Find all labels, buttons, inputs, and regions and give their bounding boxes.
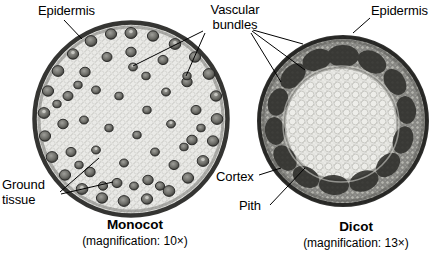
label-vascular-bundles: Vascular bundles	[204, 2, 266, 32]
caption-sub-dicot: (magnification: 13×)	[256, 236, 438, 250]
label-epidermis-left: Epidermis	[38, 3, 95, 18]
label-cortex: Cortex	[216, 169, 254, 184]
dicot-specimen	[255, 33, 435, 213]
leader-epidermis-left	[64, 20, 82, 39]
figure-container: Epidermis Vascular bundles Epidermis Gro…	[0, 0, 438, 257]
caption-sub-monocot: (magnification: 10×)	[35, 234, 235, 248]
leader-epidermis-right	[353, 18, 370, 33]
label-ground-tissue: Ground tissue	[2, 177, 45, 207]
monocot-specimen	[30, 18, 235, 223]
label-pith: Pith	[239, 198, 261, 213]
label-epidermis-right: Epidermis	[371, 3, 428, 18]
leader-vb-dicot-3	[251, 33, 281, 82]
caption-title-dicot: Dicot	[256, 219, 438, 234]
caption-title-monocot: Monocot	[35, 217, 235, 232]
